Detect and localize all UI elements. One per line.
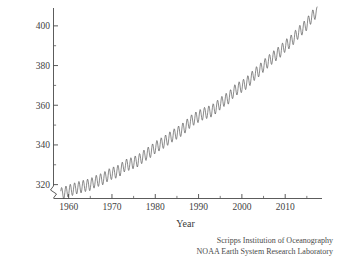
y-tick-label: 340	[36, 140, 51, 150]
x-axis-ticks	[69, 194, 307, 199]
y-tick-label: 320	[36, 180, 51, 190]
y-tick-label: 400	[36, 21, 51, 31]
x-tick-label: 1980	[146, 202, 165, 212]
x-axis-title: Year	[48, 218, 323, 229]
x-tick-label: 1970	[102, 202, 121, 212]
x-tick-label: 1990	[189, 202, 208, 212]
y-tick-label: 360	[36, 101, 51, 111]
credit-line-scripps: Scripps Institution of Oceanography	[197, 236, 333, 247]
x-tick-label: 1960	[59, 202, 78, 212]
keeling-curve-figure: 320340360380400 196019701980199020002010…	[0, 0, 341, 262]
chart-axes	[51, 8, 323, 199]
y-axis-ticks	[54, 26, 59, 185]
credits-block: Scripps Institution of Oceanography NOAA…	[197, 236, 333, 257]
credit-line-noaa: NOAA Earth System Research Laboratory	[197, 247, 333, 258]
y-axis-tick-labels: 320340360380400	[36, 21, 51, 190]
co2-data-line	[61, 7, 317, 199]
y-axis-break-icon	[51, 186, 57, 198]
x-axis-tick-labels: 196019701980199020002010	[59, 202, 295, 212]
y-tick-label: 380	[36, 61, 51, 71]
x-tick-label: 2000	[232, 202, 251, 212]
x-tick-label: 2010	[276, 202, 295, 212]
